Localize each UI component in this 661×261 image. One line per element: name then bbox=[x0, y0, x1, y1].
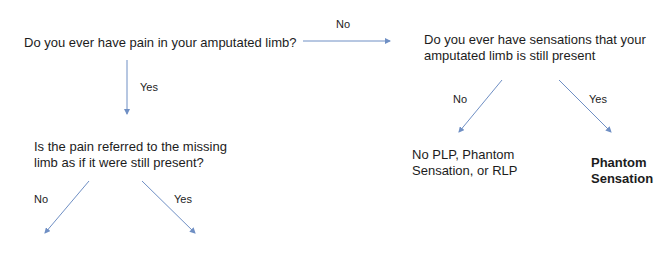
question-referred-line1: Is the pain referred to the missing bbox=[34, 139, 227, 155]
result-none-node: No PLP, Phantom Sensation, or RLP bbox=[412, 147, 518, 179]
edge-label-referred-yes: Yes bbox=[174, 193, 192, 206]
question-sensation-line1: Do you ever have sensations that your bbox=[424, 32, 646, 48]
result-phantom-sensation-node: Phantom Sensation bbox=[591, 155, 653, 187]
question-sensation-line2: amputated limb is still present bbox=[424, 48, 646, 64]
edge-label-pain-yes: Yes bbox=[140, 81, 158, 94]
arrow-referred-no bbox=[45, 181, 89, 233]
question-sensation-node: Do you ever have sensations that your am… bbox=[424, 32, 646, 64]
edge-label-sensation-yes: Yes bbox=[589, 93, 607, 106]
question-pain-node: Do you ever have pain in your amputated … bbox=[24, 35, 296, 51]
edge-label-pain-no: No bbox=[336, 18, 350, 31]
arrow-referred-yes bbox=[142, 181, 195, 233]
arrow-sensation-yes bbox=[559, 80, 611, 132]
decision-tree-diagram: Do you ever have pain in your amputated … bbox=[0, 0, 661, 261]
arrow-sensation-no bbox=[459, 80, 502, 132]
result-phantom-sensation-line1: Phantom bbox=[591, 155, 653, 171]
result-phantom-sensation-line2: Sensation bbox=[591, 171, 653, 187]
result-none-line2: Sensation, or RLP bbox=[412, 163, 518, 179]
question-pain-text: Do you ever have pain in your amputated … bbox=[24, 35, 296, 50]
edge-label-referred-no: No bbox=[34, 193, 48, 206]
edge-label-sensation-no: No bbox=[453, 93, 467, 106]
question-referred-node: Is the pain referred to the missing limb… bbox=[34, 139, 227, 171]
question-referred-line2: limb as if it were still present? bbox=[34, 155, 227, 171]
result-none-line1: No PLP, Phantom bbox=[412, 147, 518, 163]
